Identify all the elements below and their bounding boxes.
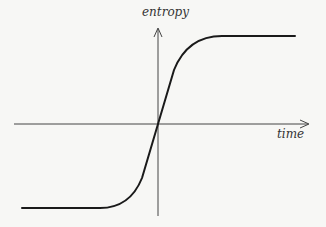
y-axis-label: entropy (142, 5, 189, 19)
sigmoid-plot (0, 0, 326, 227)
x-axis-label: time (277, 127, 304, 141)
